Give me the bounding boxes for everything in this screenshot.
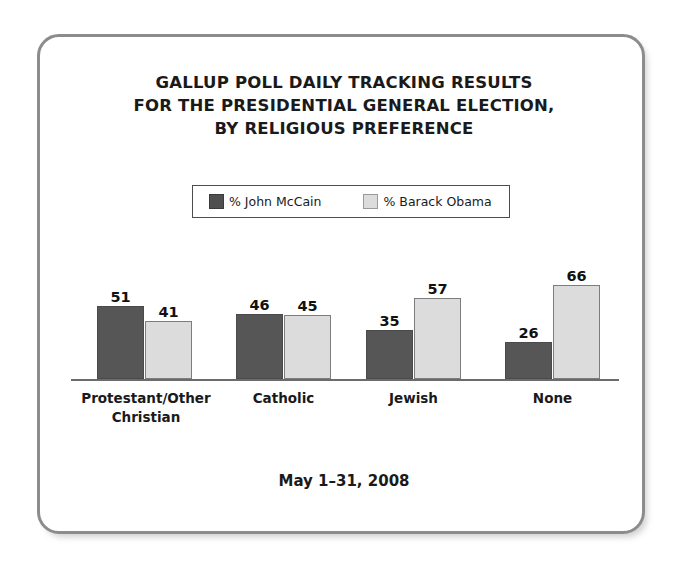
bar-catholic-obama: 45 [284, 315, 331, 379]
x-axis-line [71, 379, 619, 381]
bar-value-jewish-obama: 57 [427, 282, 447, 297]
category-label-line-1: None [495, 389, 610, 408]
bar-jewish-mccain: 35 [366, 330, 413, 379]
category-label-none: None [495, 389, 610, 408]
category-label-line-1: Jewish [356, 389, 471, 408]
chart-date-range: May 1–31, 2008 [40, 472, 648, 490]
category-label-line-2: Christian [71, 408, 221, 427]
category-label-protestant-other-christian: Protestant/Other Christian [71, 389, 221, 427]
bar-protestant-mccain: 51 [97, 306, 144, 379]
bar-group-catholic: 46 45 [236, 233, 331, 379]
bar-value-jewish-mccain: 35 [379, 314, 399, 329]
legend-label-mccain: % John McCain [229, 194, 321, 209]
bar-protestant-obama: 41 [145, 321, 192, 379]
bar-group-none: 26 66 [505, 233, 600, 379]
bar-catholic-mccain: 46 [236, 314, 283, 379]
bar-value-protestant-obama: 41 [158, 305, 178, 320]
legend-item-obama: % Barack Obama [363, 194, 491, 209]
chart-title-line-3: BY RELIGIOUS PREFERENCE [40, 117, 648, 140]
chart-card: GALLUP POLL DAILY TRACKING RESULTS FOR T… [37, 34, 645, 534]
legend-swatch-light-icon [363, 194, 378, 209]
bar-value-catholic-obama: 45 [297, 299, 317, 314]
legend-item-mccain: % John McCain [209, 194, 321, 209]
category-label-line-1: Protestant/Other [71, 389, 221, 408]
chart-plot-area: 51 41 46 45 35 57 26 [71, 233, 619, 381]
bar-none-mccain: 26 [505, 342, 552, 379]
chart-title-line-1: GALLUP POLL DAILY TRACKING RESULTS [40, 71, 648, 94]
bar-value-catholic-mccain: 46 [249, 298, 269, 313]
chart-title-line-2: FOR THE PRESIDENTIAL GENERAL ELECTION, [40, 94, 648, 117]
legend-label-obama: % Barack Obama [383, 194, 491, 209]
bar-group-protestant-other-christian: 51 41 [97, 233, 192, 379]
category-label-jewish: Jewish [356, 389, 471, 408]
category-label-line-1: Catholic [226, 389, 341, 408]
bar-value-protestant-mccain: 51 [110, 290, 130, 305]
bar-value-none-obama: 66 [566, 269, 586, 284]
bar-value-none-mccain: 26 [518, 326, 538, 341]
bar-jewish-obama: 57 [414, 298, 461, 379]
bar-group-jewish: 35 57 [366, 233, 461, 379]
chart-title: GALLUP POLL DAILY TRACKING RESULTS FOR T… [40, 71, 648, 140]
category-label-catholic: Catholic [226, 389, 341, 408]
category-axis-labels: Protestant/Other Christian Catholic Jewi… [71, 389, 619, 445]
bar-none-obama: 66 [553, 285, 600, 379]
legend-swatch-dark-icon [209, 194, 224, 209]
chart-legend: % John McCain % Barack Obama [192, 185, 510, 218]
